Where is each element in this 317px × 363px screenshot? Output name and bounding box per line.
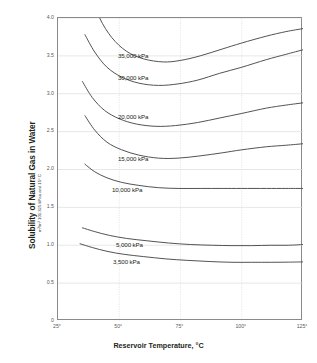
y-tick-label: 0 [0, 317, 58, 323]
x-tick-label: 25° [42, 323, 72, 329]
curve-label: 30,000 kPa [118, 74, 148, 81]
plot-area [57, 17, 302, 320]
y-tick-label: 2.5 [0, 127, 58, 133]
x-axis-title: Reservoir Temperature, °C [0, 341, 317, 350]
x-tick-label: 75° [165, 323, 195, 329]
x-tick-label: 100° [226, 323, 256, 329]
curve-label: 5,000 kPa [116, 241, 143, 248]
y-tick-label: 2.0 [0, 165, 58, 171]
y-tick-label: 3.5 [0, 52, 58, 58]
y-tick-label: 1.5 [0, 203, 58, 209]
curve-label: 15,000 kPa [118, 155, 148, 162]
x-tick-label: 50° [103, 323, 133, 329]
curve-label: 35,000 kPa [118, 52, 148, 59]
y-tick-label: 0.5 [0, 279, 58, 285]
chart-figure: Solubility of Natural Gas in Water m³/m³… [0, 0, 317, 363]
curve-label: 3,500 kPa [113, 258, 140, 265]
curve-label: 20,000 kPa [118, 113, 148, 120]
y-tick-label: 3.0 [0, 90, 58, 96]
curve-lines [58, 18, 303, 321]
y-tick-label: 4.0 [0, 14, 58, 20]
y-tick-label: 1.0 [0, 241, 58, 247]
curve-label: 10,000 kPa [112, 186, 142, 193]
y-axis-title: Solubility of Natural Gas in Water [27, 121, 37, 249]
x-tick-label: 125° [287, 323, 317, 329]
